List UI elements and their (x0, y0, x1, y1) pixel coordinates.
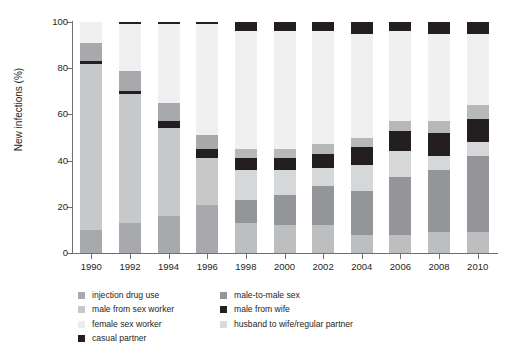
bar-segment[interactable] (389, 131, 411, 152)
bar-segment[interactable] (467, 105, 489, 119)
legend-column-left: injection drug usemale from sex workerfe… (78, 288, 218, 346)
bar-2006[interactable] (389, 22, 411, 253)
bar-2010[interactable] (467, 22, 489, 253)
bar-segment[interactable] (389, 177, 411, 235)
bar-segment[interactable] (235, 223, 257, 253)
bar-segment[interactable] (389, 31, 411, 121)
bar-1998[interactable] (235, 22, 257, 253)
bar-segment[interactable] (389, 235, 411, 253)
bar-segment[interactable] (119, 94, 141, 223)
bar-segment[interactable] (80, 43, 102, 61)
x-tick-mark (400, 254, 401, 259)
bar-segment[interactable] (158, 103, 180, 121)
bar-segment[interactable] (351, 165, 373, 190)
bar-1990[interactable] (80, 22, 102, 253)
bar-segment[interactable] (389, 151, 411, 176)
bar-segment[interactable] (80, 61, 102, 63)
y-tick-label-wrap: 40 (32, 156, 68, 157)
bar-segment[interactable] (158, 128, 180, 216)
bar-segment[interactable] (196, 22, 218, 24)
bar-1992[interactable] (119, 22, 141, 253)
bar-segment[interactable] (428, 156, 450, 170)
bar-segment[interactable] (467, 34, 489, 106)
bar-segment[interactable] (312, 168, 334, 186)
bar-segment[interactable] (312, 186, 334, 225)
bar-segment[interactable] (158, 22, 180, 24)
bar-segment[interactable] (274, 195, 296, 225)
bar-segment[interactable] (235, 31, 257, 149)
bar-segment[interactable] (235, 170, 257, 200)
bar-1994[interactable] (158, 22, 180, 253)
bar-segment[interactable] (80, 64, 102, 230)
legend-item[interactable]: husband to wife/regular partner (220, 317, 460, 332)
legend-item[interactable]: male from sex worker (78, 303, 218, 318)
bar-2000[interactable] (274, 22, 296, 253)
bar-segment[interactable] (158, 121, 180, 128)
stacked-bar-chart-figure: New infections (%) 100806040200 19901992… (0, 0, 510, 360)
bar-segment[interactable] (119, 22, 141, 24)
bar-segment[interactable] (274, 149, 296, 158)
bar-segment[interactable] (428, 170, 450, 232)
bar-segment[interactable] (351, 22, 373, 34)
bar-2002[interactable] (312, 22, 334, 253)
legend-item[interactable]: casual partner (78, 332, 218, 347)
bar-segment[interactable] (389, 121, 411, 130)
bar-segment[interactable] (235, 158, 257, 170)
bar-segment[interactable] (196, 24, 218, 135)
plot-area (72, 22, 497, 253)
bar-segment[interactable] (351, 235, 373, 253)
bar-segment[interactable] (312, 22, 334, 31)
bar-segment[interactable] (467, 22, 489, 34)
x-tick-label-2006: 2006 (378, 261, 422, 272)
bar-segment[interactable] (312, 144, 334, 153)
bar-segment[interactable] (312, 154, 334, 168)
bar-segment[interactable] (119, 24, 141, 70)
bar-segment[interactable] (158, 24, 180, 103)
bar-segment[interactable] (196, 205, 218, 254)
bar-segment[interactable] (428, 232, 450, 253)
bar-segment[interactable] (274, 158, 296, 170)
bar-segment[interactable] (196, 135, 218, 149)
bar-segment[interactable] (196, 149, 218, 158)
legend-swatch-icon (78, 292, 85, 299)
bar-segment[interactable] (80, 22, 102, 43)
bar-segment[interactable] (312, 225, 334, 253)
y-tick-label: 20 (40, 202, 68, 212)
legend-swatch-icon (220, 321, 227, 328)
bar-segment[interactable] (235, 22, 257, 31)
bar-segment[interactable] (467, 156, 489, 232)
bar-segment[interactable] (274, 22, 296, 31)
bar-segment[interactable] (467, 232, 489, 253)
bar-segment[interactable] (119, 223, 141, 253)
bar-segment[interactable] (274, 31, 296, 149)
bar-segment[interactable] (158, 216, 180, 253)
bar-1996[interactable] (196, 22, 218, 253)
bar-segment[interactable] (428, 133, 450, 156)
bar-segment[interactable] (274, 225, 296, 253)
bar-segment[interactable] (119, 91, 141, 93)
bar-segment[interactable] (428, 34, 450, 122)
bar-segment[interactable] (389, 22, 411, 31)
bar-segment[interactable] (196, 158, 218, 204)
bar-segment[interactable] (235, 149, 257, 158)
bar-segment[interactable] (312, 31, 334, 144)
bar-2008[interactable] (428, 22, 450, 253)
legend-item[interactable]: injection drug use (78, 288, 218, 303)
bar-segment[interactable] (351, 34, 373, 138)
bar-segment[interactable] (467, 142, 489, 156)
bar-segment[interactable] (351, 191, 373, 235)
bar-segment[interactable] (428, 22, 450, 34)
bar-segment[interactable] (274, 170, 296, 195)
legend-item[interactable]: male from wife (220, 303, 460, 318)
bar-segment[interactable] (428, 121, 450, 133)
bar-segment[interactable] (80, 230, 102, 253)
bar-segment[interactable] (467, 119, 489, 142)
bar-segment[interactable] (351, 138, 373, 147)
bar-2004[interactable] (351, 22, 373, 253)
legend-item[interactable]: male-to-male sex (220, 288, 460, 303)
legend-item[interactable]: female sex worker (78, 317, 218, 332)
bar-segment[interactable] (351, 147, 373, 165)
x-tick-mark (362, 254, 363, 259)
bar-segment[interactable] (235, 200, 257, 223)
bar-segment[interactable] (119, 71, 141, 92)
